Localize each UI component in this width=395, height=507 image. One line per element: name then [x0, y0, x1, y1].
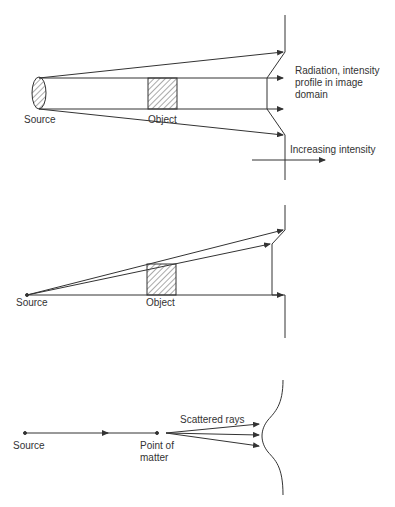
- source-label-2: Source: [16, 297, 48, 309]
- source-label-1: Source: [24, 114, 56, 126]
- profile-label: Radiation, intensity profile in image do…: [295, 65, 380, 101]
- object-block: [148, 78, 177, 109]
- object-block: [147, 264, 176, 295]
- scattered-label: Scattered rays: [180, 414, 244, 426]
- diagram-scattering: [24, 380, 284, 495]
- source-label-3: Source: [13, 440, 45, 452]
- diagram-parallel-beam: [32, 15, 325, 180]
- axis-label: Increasing intensity: [290, 144, 376, 156]
- intensity-profile: [267, 15, 285, 180]
- diagram-point-source: [26, 205, 286, 338]
- object-label-2: Object: [146, 297, 175, 309]
- intensity-profile: [272, 205, 285, 338]
- scatter-profile: [262, 380, 283, 495]
- object-label-1: Object: [148, 114, 177, 126]
- point-label: Point of matter: [140, 440, 174, 464]
- source-lens-icon: [32, 77, 46, 109]
